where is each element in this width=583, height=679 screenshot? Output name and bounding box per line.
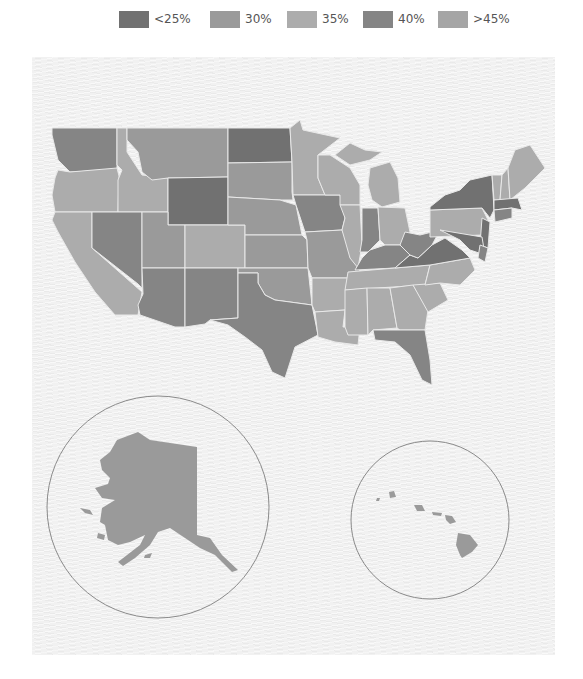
state-delaware[interactable] xyxy=(478,245,488,262)
state-hawaii-kauai[interactable] xyxy=(389,491,396,498)
state-arizona[interactable] xyxy=(138,268,185,327)
state-hawaii-oahu[interactable] xyxy=(414,505,425,511)
state-michigan-upper-peninsula[interactable] xyxy=(335,143,382,165)
hawaii-inset xyxy=(351,441,509,599)
state-north-dakota[interactable] xyxy=(228,128,292,163)
state-hawaii-maui[interactable] xyxy=(445,515,456,524)
state-washington[interactable] xyxy=(52,128,117,172)
state-montana[interactable] xyxy=(127,128,228,180)
state-connecticut[interactable] xyxy=(494,208,512,222)
state-hawaii-molokai[interactable] xyxy=(432,512,442,516)
state-maine[interactable] xyxy=(508,145,545,200)
state-michigan[interactable] xyxy=(368,162,400,207)
state-kansas[interactable] xyxy=(245,235,308,268)
state-hawaii-big-island[interactable] xyxy=(456,533,478,558)
contiguous-us xyxy=(52,120,545,385)
state-hawaii-niihau[interactable] xyxy=(376,498,380,501)
state-alaska-islands[interactable] xyxy=(97,533,105,540)
state-florida[interactable] xyxy=(373,330,432,385)
state-pennsylvania[interactable] xyxy=(430,208,488,237)
state-iowa[interactable] xyxy=(293,195,345,232)
state-indiana[interactable] xyxy=(360,208,380,252)
state-oregon[interactable] xyxy=(52,168,119,212)
us-choropleth-map xyxy=(0,0,583,679)
state-south-dakota[interactable] xyxy=(228,162,293,200)
state-alaska[interactable] xyxy=(95,432,238,572)
state-alaska-islands[interactable] xyxy=(144,553,152,558)
state-mississippi[interactable] xyxy=(345,288,368,335)
state-colorado[interactable] xyxy=(185,225,245,268)
hawaii-inset-circle xyxy=(351,441,509,599)
state-wyoming[interactable] xyxy=(168,177,228,225)
state-alaska-islands[interactable] xyxy=(80,508,93,515)
alaska-inset xyxy=(47,396,269,618)
